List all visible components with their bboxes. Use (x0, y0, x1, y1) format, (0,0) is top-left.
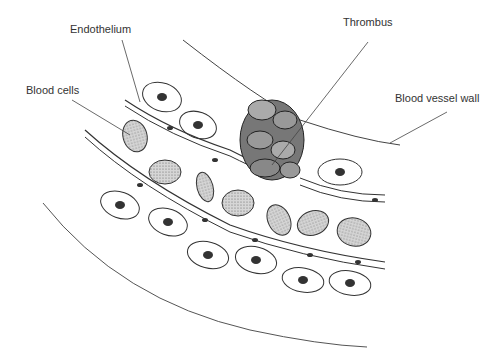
thrombus-diagram (0, 0, 504, 355)
vessel-wall-label: Blood vessel wall (395, 92, 479, 104)
endothelium-label: Endothelium (70, 23, 131, 35)
thrombus-label: Thrombus (343, 16, 393, 28)
endothelium-leader (122, 40, 140, 102)
blood-cells-leader (72, 100, 130, 135)
thrombus (240, 100, 304, 180)
thrombus-leader (272, 42, 368, 165)
blood-cells-label: Blood cells (26, 84, 79, 96)
vessel-wall-leader (390, 112, 447, 143)
wall-cells (97, 77, 373, 298)
